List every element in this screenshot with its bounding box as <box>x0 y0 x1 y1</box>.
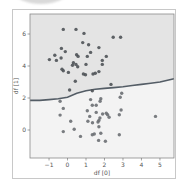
x-axis-ticks: −1012345 <box>45 158 162 168</box>
data-point <box>67 71 70 74</box>
data-point <box>74 28 77 31</box>
data-point <box>97 139 100 142</box>
data-point <box>89 51 92 54</box>
data-point <box>71 63 74 66</box>
data-point <box>60 68 63 71</box>
scatter-plot: −1012345 0246 df [0] df [1] <box>0 0 188 194</box>
data-point <box>91 121 94 124</box>
data-point <box>112 36 115 39</box>
y-axis-label: df [1] <box>12 78 19 94</box>
x-tick-label: 5 <box>158 161 162 168</box>
data-point <box>87 43 90 46</box>
data-point <box>73 128 76 131</box>
x-tick-label: −1 <box>45 161 54 168</box>
y-axis-ticks: 0246 <box>22 30 30 133</box>
data-point <box>118 133 121 136</box>
data-point <box>99 132 102 135</box>
data-point <box>86 109 89 112</box>
data-point <box>86 55 89 58</box>
decision-regions <box>30 14 174 158</box>
data-point <box>91 104 94 107</box>
data-point <box>119 36 122 39</box>
data-point <box>64 50 67 53</box>
data-point <box>119 108 122 111</box>
data-point <box>91 89 94 92</box>
x-tick-label: 3 <box>121 161 125 168</box>
data-point <box>81 41 84 44</box>
data-point <box>89 98 92 101</box>
x-tick-label: 2 <box>103 161 107 168</box>
data-point <box>118 113 121 116</box>
data-point <box>62 28 65 31</box>
x-axis-label: df [0] <box>94 169 110 176</box>
data-point <box>107 116 110 119</box>
data-point <box>84 63 87 66</box>
data-point <box>104 140 107 143</box>
data-point <box>79 135 82 138</box>
y-tick-label: 6 <box>22 30 26 37</box>
data-point <box>76 55 79 58</box>
data-point <box>96 120 99 123</box>
data-point <box>60 47 63 50</box>
data-point <box>69 120 72 123</box>
data-point <box>109 83 112 86</box>
data-point <box>93 132 96 135</box>
data-point <box>53 54 56 57</box>
x-tick-label: 0 <box>66 161 70 168</box>
data-point <box>48 58 51 61</box>
data-point <box>95 111 98 114</box>
data-point <box>94 72 97 75</box>
data-point <box>97 125 100 128</box>
data-point <box>95 104 98 107</box>
y-tick-label: 0 <box>22 126 26 133</box>
data-point <box>74 80 77 83</box>
chart-root: −1012345 0246 df [0] df [1] <box>0 0 188 194</box>
data-point <box>68 88 71 91</box>
data-point <box>101 63 104 66</box>
data-point <box>55 59 58 62</box>
data-point <box>76 65 79 68</box>
data-point <box>58 100 61 103</box>
x-tick-label: 4 <box>140 161 144 168</box>
data-point <box>82 32 85 35</box>
data-point <box>154 115 157 118</box>
data-point <box>86 120 89 123</box>
data-point <box>84 73 87 76</box>
data-point <box>120 92 123 95</box>
data-point <box>58 113 61 116</box>
data-point <box>62 107 65 110</box>
data-point <box>105 55 108 58</box>
data-point <box>98 100 101 103</box>
y-tick-label: 4 <box>22 62 26 69</box>
data-point <box>97 70 100 73</box>
data-point <box>97 46 100 49</box>
data-point <box>101 112 104 115</box>
data-point <box>119 96 122 99</box>
data-point <box>88 115 91 118</box>
data-point <box>59 56 62 59</box>
data-point <box>101 59 104 62</box>
y-tick-label: 2 <box>22 94 26 101</box>
x-tick-label: 1 <box>84 161 88 168</box>
data-point <box>62 130 65 133</box>
